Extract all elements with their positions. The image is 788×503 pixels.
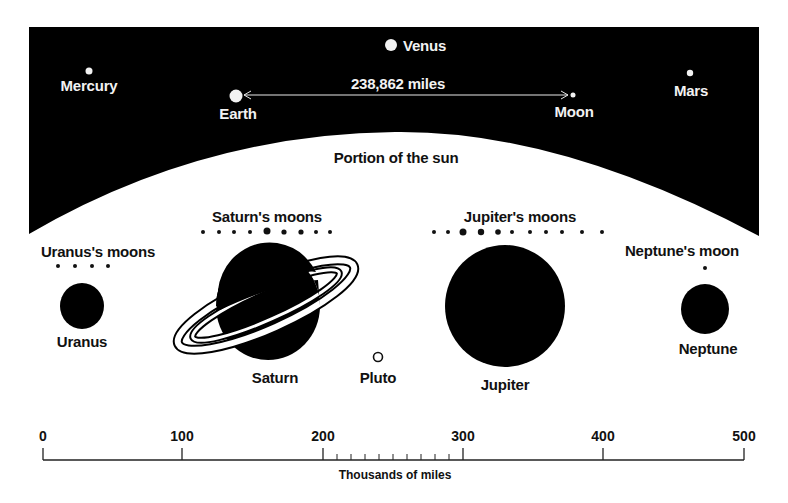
neptune-label: Neptune <box>679 340 738 357</box>
mercury-dot <box>86 68 93 75</box>
scale-tick-0: 0 <box>39 428 47 444</box>
scale-tick-400: 400 <box>591 428 614 444</box>
scale-tick-300: 300 <box>451 428 474 444</box>
earth-moon-distance-label: 238,862 miles <box>351 75 445 92</box>
uranus-moons <box>56 264 110 268</box>
space-background <box>29 27 759 236</box>
sun-label: Portion of the sun <box>334 149 459 166</box>
jupiter-label: Jupiter <box>481 376 530 393</box>
neptune-planet <box>681 284 729 334</box>
venus-dot <box>385 39 397 51</box>
mars-label: Mars <box>674 82 708 99</box>
uranus-moons-label: Uranus's moons <box>41 243 155 260</box>
saturn-moons-label: Saturn's moons <box>212 208 322 225</box>
scale-tick-200: 200 <box>311 428 334 444</box>
jupiter-moons-label: Jupiter's moons <box>464 208 576 225</box>
neptune-moon-label: Neptune's moon <box>625 242 739 259</box>
saturn-planet <box>169 242 364 366</box>
scale-tick-500: 500 <box>732 428 755 444</box>
scale-title: Thousands of miles <box>339 468 452 482</box>
scale-bar <box>43 448 744 460</box>
saturn-label: Saturn <box>252 369 298 386</box>
neptune-moon <box>703 266 707 270</box>
uranus-planet <box>60 283 104 329</box>
mars-dot <box>687 70 693 76</box>
jupiter-planet <box>445 245 565 367</box>
solar-system-size-diagram: Mercury Venus Earth Moon Mars 238,862 mi… <box>0 0 788 503</box>
mercury-label: Mercury <box>61 77 118 94</box>
pluto-planet <box>374 353 383 362</box>
uranus-label: Uranus <box>57 333 107 350</box>
earth-label: Earth <box>219 105 256 122</box>
scale-tick-100: 100 <box>170 428 193 444</box>
venus-label: Venus <box>403 37 446 54</box>
pluto-label: Pluto <box>360 369 397 386</box>
moon-label: Moon <box>554 103 593 120</box>
earth-dot <box>230 90 243 103</box>
saturn-moons <box>201 228 332 235</box>
moon-dot <box>571 93 576 98</box>
jupiter-moons <box>432 229 604 236</box>
